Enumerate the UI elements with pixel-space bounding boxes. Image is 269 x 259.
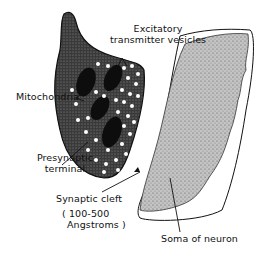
- presynaptic-terminal-label: Presynaptic terminal: [30, 152, 100, 174]
- mitochondria-label: Mitochondria: [16, 91, 79, 102]
- synaptic-cleft-label: Synaptic cleft: [56, 193, 122, 204]
- cleft-size-label: ( 100-500 Angstroms ): [62, 208, 126, 230]
- soma-label: Soma of neuron: [161, 233, 238, 244]
- soma: [140, 33, 248, 211]
- synapse-diagram: Excitatory transmitter vesicles Mitochon…: [0, 0, 269, 259]
- vesicles-label: Excitatory transmitter vesicles: [103, 23, 213, 45]
